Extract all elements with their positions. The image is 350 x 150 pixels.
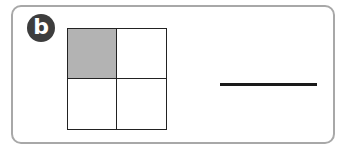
fraction-grid	[67, 28, 167, 130]
grid-cell	[117, 29, 166, 79]
grid-cell-shaded	[68, 29, 117, 79]
answer-blank-line[interactable]	[220, 83, 317, 86]
grid-cell	[117, 79, 166, 129]
question-label-badge: b	[27, 14, 55, 42]
question-card	[11, 5, 335, 144]
grid-cell	[68, 79, 117, 129]
